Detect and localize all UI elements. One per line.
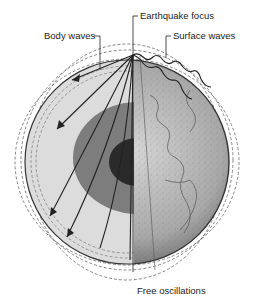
label-surface-waves: Surface waves	[173, 31, 235, 41]
earth-cross-section-figure	[0, 0, 254, 301]
label-earthquake-focus: Earthquake focus	[140, 11, 214, 21]
earth-seismic-diagram: Earthquake focus Body waves Surface wave…	[0, 0, 254, 301]
label-body-waves: Body waves	[44, 31, 95, 41]
label-free-oscillations: Free oscillations	[137, 286, 206, 296]
